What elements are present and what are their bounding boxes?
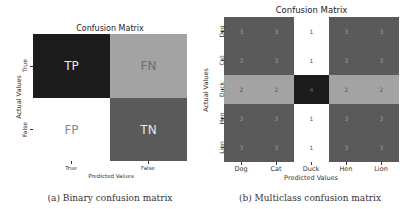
matrix-cell: 1 [294,133,329,162]
ytick-mark [221,89,224,90]
matrix-cell: 3 [364,46,399,75]
ytick-mark [221,147,224,148]
matrix-cell-value: 3 [240,57,244,64]
multi-chart-title: Confusion Matrix [224,5,399,15]
cell-tp-label: TP [64,59,79,73]
matrix-cell-value: 1 [310,57,314,64]
matrix-cell: 3 [224,104,259,133]
matrix-cell: 2 [259,75,294,104]
multi-caption: (b) Multiclass confusion matrix [220,193,400,203]
matrix-cell: 3 [364,133,399,162]
matrix-cell-value: 3 [380,144,384,151]
matrix-cell: 3 [364,17,399,46]
binary-xlabel: Predicted Values [78,173,144,179]
binary-chart-title: Confusion Matrix [33,24,187,33]
matrix-cell: 2 [364,75,399,104]
matrix-cell: 3 [329,133,364,162]
xtick-mark [148,161,149,164]
matrix-cell-value: 2 [240,86,244,93]
binary-ylabel: Actual Values [15,67,23,127]
matrix-cell-value: 3 [275,144,279,151]
xtick-lion: Lion [366,165,396,173]
matrix-cell-value: 2 [275,86,279,93]
xtick-false: False [133,165,163,171]
matrix-cell: 2 [224,75,259,104]
matrix-cell-value: 3 [345,144,349,151]
cell-fp: FP [33,98,110,161]
matrix-cell-value: 3 [275,28,279,35]
ytick-mark [221,31,224,32]
matrix-cell: 3 [364,104,399,133]
ytick-mark [30,129,33,130]
ytick-mark [221,118,224,119]
cell-fn-label: FN [141,59,157,73]
xtick-cat: Cat [261,165,291,173]
matrix-cell: 3 [329,17,364,46]
matrix-cell-value: 3 [380,115,384,122]
matrix-cell-value: 3 [275,115,279,122]
matrix-cell: 1 [294,46,329,75]
binary-caption: (a) Binary confusion matrix [20,193,200,203]
matrix-cell: 1 [294,104,329,133]
matrix-cell-value: 3 [345,115,349,122]
xtick-hen: Hen [331,165,361,173]
matrix-cell-value: 3 [275,57,279,64]
matrix-cell-value: 3 [240,28,244,35]
matrix-cell: 3 [329,46,364,75]
xtick-duck: Duck [296,165,326,173]
cell-tp: TP [33,34,110,98]
matrix-cell: 3 [259,17,294,46]
matrix-cell: 3 [259,133,294,162]
matrix-cell: 1 [294,17,329,46]
matrix-cell-value: 3 [240,144,244,151]
ytick-mark [30,66,33,67]
matrix-cell: 3 [259,46,294,75]
matrix-cell: 3 [224,133,259,162]
matrix-cell-value: 3 [345,28,349,35]
matrix-cell-value: 1 [310,115,314,122]
matrix-cell-value: 3 [345,57,349,64]
matrix-cell-value: 4 [310,86,314,93]
matrix-cell-value: 3 [380,57,384,64]
matrix-cell: 3 [259,104,294,133]
cell-fn: FN [110,34,187,98]
multi-matrix-grid: 3313333133224223313333133 [224,17,399,162]
matrix-cell-value: 2 [380,86,384,93]
matrix-cell-value: 1 [310,28,314,35]
cell-tn: TN [110,98,187,161]
xtick-mark [71,161,72,164]
xtick-true: True [56,165,86,171]
matrix-cell-value: 2 [345,86,349,93]
matrix-cell-value: 1 [310,144,314,151]
cell-fp-label: FP [64,123,78,137]
matrix-cell-value: 3 [380,28,384,35]
matrix-cell: 3 [224,46,259,75]
matrix-cell: 3 [329,104,364,133]
matrix-cell: 3 [224,17,259,46]
xtick-dog: Dog [226,165,256,173]
matrix-cell: 4 [294,75,329,104]
matrix-cell: 2 [329,75,364,104]
ytick-mark [221,60,224,61]
multi-ylabel: Actual Values [202,60,210,120]
matrix-cell-value: 3 [240,115,244,122]
multi-xlabel: Predicted Values [276,174,346,182]
cell-tn-label: TN [140,123,156,137]
